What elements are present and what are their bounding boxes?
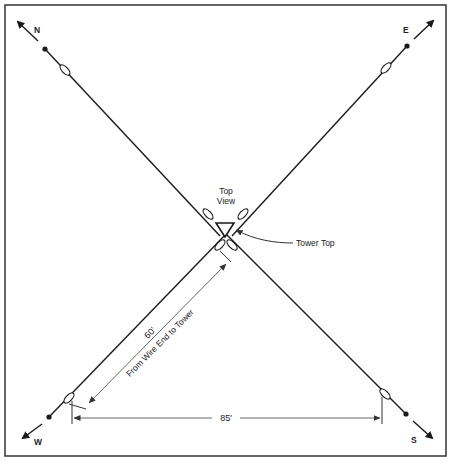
label-east: E: [403, 25, 409, 35]
label-west: W: [34, 437, 43, 447]
label-north: N: [34, 25, 40, 35]
label-top-view-2: View: [217, 196, 236, 206]
tower-top-leader: [236, 230, 293, 243]
insulator-south-end: [378, 387, 391, 400]
label-dim-60-caption: From Wire End to Tower: [124, 307, 196, 379]
label-dim-85: 85': [220, 413, 232, 423]
insulator-east-end: [379, 61, 392, 75]
insulator-west-end: [62, 391, 75, 405]
wire-west: [23, 232, 228, 438]
label-tower-top: Tower Top: [296, 238, 335, 248]
anchor-dot-west: [46, 414, 51, 419]
label-south: S: [411, 435, 417, 445]
anchor-dot-east: [404, 43, 409, 48]
anchor-dot-north: [42, 46, 47, 51]
label-dim-60: 60': [142, 325, 158, 341]
wire-north: [18, 22, 220, 236]
wire-east: [232, 21, 433, 236]
diagram-frame: N E W S Top View Tower Top 60' From Wire…: [0, 0, 451, 462]
wire-south: [224, 232, 432, 438]
insulator-north-end: [58, 63, 71, 77]
label-top-view-1: Top: [219, 186, 233, 196]
arrow-west-icon: [23, 424, 42, 438]
arrow-east-icon: [414, 21, 433, 39]
anchor-dot-south: [403, 411, 408, 416]
